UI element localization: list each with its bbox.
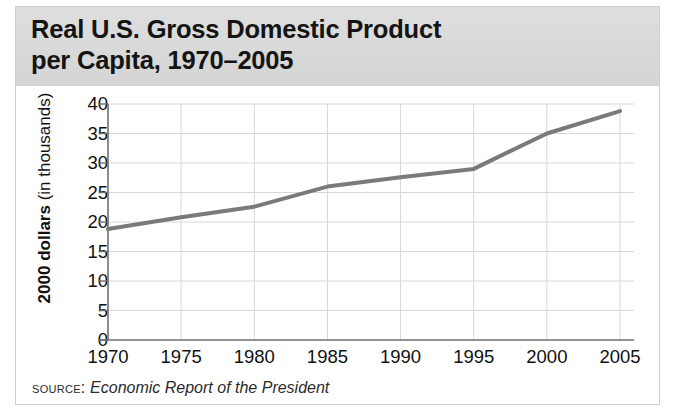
x-tick-label: 1975 [161, 348, 202, 367]
line-chart-svg [16, 86, 661, 374]
data-series-line [108, 111, 620, 229]
x-tick-label: 2000 [526, 348, 567, 367]
x-axis-tick-labels: 19701975198019851990199520002005 [16, 348, 659, 378]
figure-card: Real U.S. Gross Domestic Product per Cap… [15, 6, 660, 405]
x-tick-label: 1980 [234, 348, 275, 367]
x-tick-label: 2005 [599, 348, 640, 367]
source-text: Economic Report of the President [90, 379, 329, 396]
x-tick-label: 1990 [380, 348, 421, 367]
x-tick-label: 1970 [87, 348, 128, 367]
chart-plot-area: 2000 dollars (in thousands) 051015202530… [16, 86, 659, 374]
source-note: Source: Economic Report of the President [32, 379, 329, 397]
axis-tick-marks [99, 104, 108, 340]
source-label: Source: [32, 379, 86, 396]
title-banner: Real U.S. Gross Domestic Product per Cap… [16, 7, 659, 86]
horizontal-grid-lines [108, 104, 634, 311]
x-tick-label: 1985 [307, 348, 348, 367]
page-title: Real U.S. Gross Domestic Product per Cap… [31, 14, 631, 76]
x-tick-label: 1995 [453, 348, 494, 367]
